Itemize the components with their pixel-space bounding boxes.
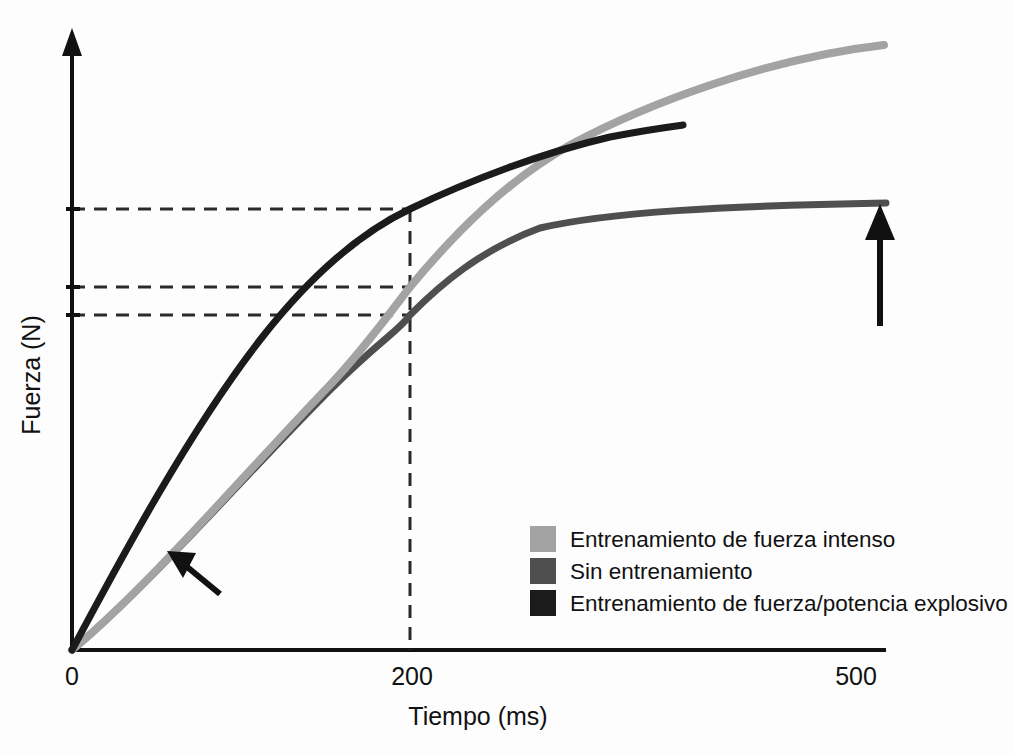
x-tick-label-0: 0 [65,662,79,690]
x-tick-label-200: 200 [391,662,433,690]
y-axis-title: Fuerza (N) [17,315,45,434]
legend-item-entrenamiento-intenso[interactable]: Entrenamiento de fuerza intenso [530,526,895,552]
force-time-chart: 0 200 500 Tiempo (ms) Fuerza (N) Entrena… [0,0,1014,754]
legend-label-entrenamiento-explosivo: Entrenamiento de fuerza/potencia explosi… [570,591,1008,616]
x-axis-title: Tiempo (ms) [408,702,547,730]
x-tick-label-500: 500 [835,662,877,690]
legend-swatch-entrenamiento-intenso [530,526,556,552]
legend-swatch-entrenamiento-explosivo [530,590,556,616]
legend-label-entrenamiento-intenso: Entrenamiento de fuerza intenso [570,527,895,552]
legend-item-entrenamiento-explosivo[interactable]: Entrenamiento de fuerza/potencia explosi… [530,590,1008,616]
legend-label-sin-entrenamiento: Sin entrenamiento [570,559,753,584]
legend-swatch-sin-entrenamiento [530,558,556,584]
chart-canvas: 0 200 500 Tiempo (ms) Fuerza (N) Entrena… [0,0,1014,754]
chart-background [0,0,1014,754]
